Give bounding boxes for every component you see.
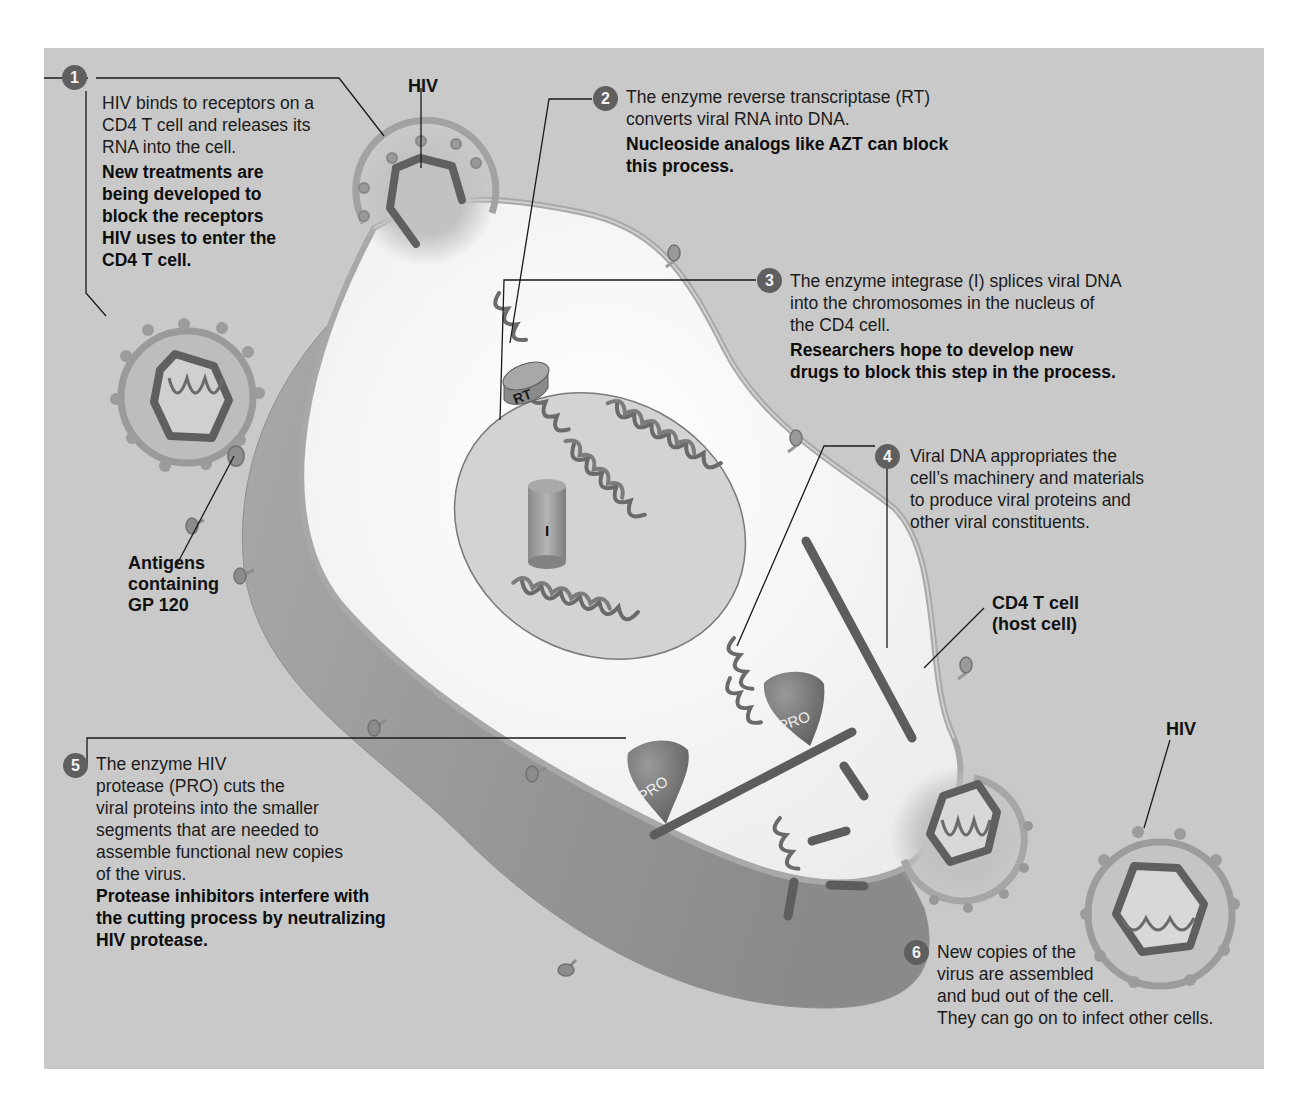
host-cell-label: CD4 T cell (host cell) (992, 593, 1079, 635)
hiv-virion-entering (356, 120, 496, 266)
step-bold-line: Researchers hope to develop new (790, 339, 1190, 361)
antigens-line: Antigens (128, 553, 219, 574)
step-text-line: The enzyme HIV (96, 753, 476, 775)
step-text-line: virus are assembled (937, 963, 1264, 985)
step-text-line: to produce viral proteins and (910, 489, 1210, 511)
step-text-line: of the virus. (96, 863, 476, 885)
step-5-description: The enzyme HIV protease (PRO) cuts the v… (96, 753, 476, 951)
hiv-virion-free-left (110, 318, 265, 472)
step-text-line: The enzyme integrase (I) splices viral D… (790, 270, 1190, 292)
step-text-line: assemble functional new copies (96, 841, 476, 863)
hiv-label-top: HIV (408, 76, 438, 97)
step-1-badge: 1 (62, 65, 87, 90)
step-bold-line: being developed to (102, 183, 372, 205)
integrase-label: I (545, 522, 549, 539)
step-text-line: RNA into the cell. (102, 136, 372, 158)
step-text-line: segments that are needed to (96, 819, 476, 841)
step-6-description: New copies of the virus are assembled an… (937, 941, 1264, 1029)
step-text-line: CD4 T cell and releases its (102, 114, 372, 136)
step-5-badge: 5 (63, 753, 88, 778)
step-text-line: Viral DNA appropriates the (910, 445, 1210, 467)
antigens-line: GP 120 (128, 595, 219, 616)
host-cell-line: CD4 T cell (992, 593, 1079, 614)
step-text-line: other viral constituents. (910, 511, 1210, 533)
step-2-description: The enzyme reverse transcriptase (RT) co… (626, 86, 986, 177)
step-bold-line: block the receptors (102, 205, 372, 227)
step-text-line: They can go on to infect other cells. (937, 1007, 1264, 1029)
antigens-line: containing (128, 574, 219, 595)
step-4-badge: 4 (875, 444, 900, 469)
step-bold-line: Protease inhibitors interfere with (96, 885, 476, 907)
step-2-badge: 2 (593, 86, 618, 111)
step-text-line: protease (PRO) cuts the (96, 775, 476, 797)
step-3-badge: 3 (757, 268, 782, 293)
step-text-line: HIV binds to receptors on a (102, 92, 372, 114)
step-text-line: viral proteins into the smaller (96, 797, 476, 819)
integrase-i: I (528, 479, 566, 569)
step-bold-line: HIV uses to enter the (102, 227, 372, 249)
step-text-line: The enzyme reverse transcriptase (RT) (626, 86, 986, 108)
step-bold-line: drugs to block this step in the process. (790, 361, 1190, 383)
step-bold-line: Nucleoside analogs like AZT can block (626, 133, 986, 155)
step-1-description: HIV binds to receptors on a CD4 T cell a… (102, 92, 372, 271)
step-bold-line: this process. (626, 155, 986, 177)
step-bold-line: New treatments are (102, 161, 372, 183)
step-6-badge: 6 (904, 940, 929, 965)
step-text-line: New copies of the (937, 941, 1264, 963)
antigens-label: Antigens containing GP 120 (128, 553, 219, 616)
step-text-line: cell’s machinery and materials (910, 467, 1210, 489)
step-text-line: converts viral RNA into DNA. (626, 108, 986, 130)
diagram-panel: RT I PRO PRO (44, 48, 1264, 1069)
host-cell-line: (host cell) (992, 614, 1079, 635)
step-4-description: Viral DNA appropriates the cell’s machin… (910, 445, 1210, 533)
step-bold-line: HIV protease. (96, 929, 476, 951)
step-text-line: and bud out of the cell. (937, 985, 1264, 1007)
hiv-label-right: HIV (1166, 719, 1196, 740)
step-text-line: the CD4 cell. (790, 314, 1190, 336)
step-bold-line: CD4 T cell. (102, 249, 372, 271)
step-text-line: into the chromosomes in the nucleus of (790, 292, 1190, 314)
step-3-description: The enzyme integrase (I) splices viral D… (790, 270, 1190, 383)
step-bold-line: the cutting process by neutralizing (96, 907, 476, 929)
